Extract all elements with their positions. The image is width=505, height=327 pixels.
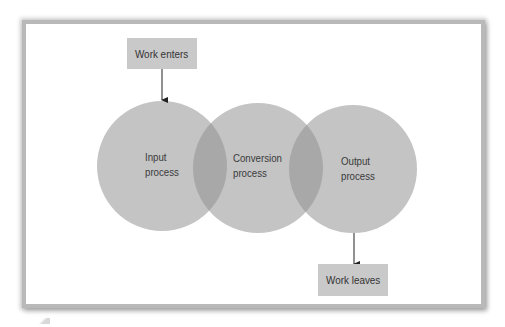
work-leaves-box: Work leaves xyxy=(318,264,388,296)
work-enters-box: Work enters xyxy=(127,38,197,69)
conversion-process-label: Conversion process xyxy=(233,151,282,181)
input-process-label: Input process xyxy=(145,150,179,180)
work-leaves-label: Work leaves xyxy=(326,274,380,286)
work-enters-label: Work enters xyxy=(135,48,188,60)
output-process-label: Output process xyxy=(341,154,375,184)
